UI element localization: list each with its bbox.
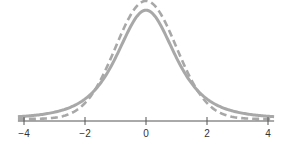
x-tick-label: 0 [143,128,149,139]
x-tick-label: −2 [79,128,91,139]
x-ticks: −4−2024 [18,117,271,139]
t-curve-solid [18,10,274,117]
x-tick-label: −4 [18,128,30,139]
normal-curve-dashed [18,1,274,119]
x-tick-label: 4 [265,128,271,139]
curves-layer [18,1,274,119]
chart: −4−2024 [0,0,287,145]
x-tick-label: 2 [204,128,210,139]
